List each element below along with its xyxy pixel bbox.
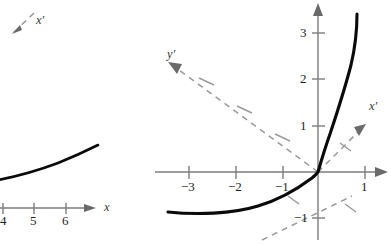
- left-x-prime-label: x′: [36, 14, 44, 27]
- x-prime-label: x′: [369, 100, 377, 113]
- figure-canvas: [0, 0, 391, 246]
- y-prime-tick-1: [275, 134, 290, 141]
- y-prime-arrowhead: [168, 62, 182, 74]
- x-prime-arrowhead: [354, 124, 366, 136]
- y-tick-label-2: 2: [300, 72, 307, 85]
- left-x-tick-label-4: 4: [0, 214, 7, 227]
- x-tick-label-1: 1: [361, 180, 368, 193]
- left-x-axis-arrowhead: [84, 204, 96, 212]
- x-prime-tick-neg-2: [345, 204, 356, 212]
- left-x-axis-group: [0, 203, 96, 214]
- main-x-axis-group: [155, 166, 388, 179]
- figure-root: x′ 4 5 6 x y′ x′ −3 −2 −1 1 3 2 1 −1: [0, 0, 391, 246]
- left-curve: [0, 145, 98, 181]
- y-tick-label-minus1: −1: [294, 211, 308, 224]
- x-tick-label-minus3: −3: [181, 180, 195, 193]
- left-x-prime-arrowhead: [12, 25, 22, 34]
- y-prime-tick-2: [237, 106, 252, 113]
- x-tick-label-minus1: −1: [275, 180, 289, 193]
- parabola-curve: [168, 14, 357, 214]
- left-x-tick-label-5: 5: [30, 214, 37, 227]
- main-y-prime-axis-group: [168, 62, 318, 172]
- y-axis-arrowhead: [313, 3, 323, 16]
- y-tick-label-3: 3: [300, 26, 307, 39]
- x-axis-arrowhead: [375, 167, 388, 177]
- y-prime-axis-line: [175, 67, 318, 172]
- x-prime-tick-neg-1: [288, 196, 299, 204]
- y-prime-tick-3: [199, 78, 214, 85]
- left-x-axis-label: x: [104, 201, 110, 214]
- main-y-axis-group: [312, 3, 325, 240]
- y-prime-label: y′: [167, 48, 175, 61]
- x-tick-label-minus2: −2: [228, 180, 242, 193]
- y-tick-label-1: 1: [300, 119, 307, 132]
- left-rotated-axis-group: [12, 13, 34, 34]
- x-prime-tick-pos-1: [340, 143, 351, 151]
- left-x-tick-label-6: 6: [62, 214, 69, 227]
